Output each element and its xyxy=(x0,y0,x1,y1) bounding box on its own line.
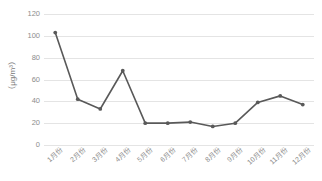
y-axis-tick-labels: 020406080100120 xyxy=(16,0,40,181)
y-tick-label: 60 xyxy=(18,76,40,84)
y-axis-title-label: （μg/m³） xyxy=(6,57,17,94)
data-point xyxy=(188,120,192,124)
data-point xyxy=(211,125,215,129)
x-tick-label: 11月份 xyxy=(268,146,288,165)
data-point xyxy=(166,121,170,125)
y-tick-label: 100 xyxy=(18,32,40,40)
x-axis-tick-labels: 1月份2月份3月份4月份5月份6月份7月份8月份9月份10月份11月份12月份 xyxy=(44,146,314,181)
x-tick-label: 12月份 xyxy=(291,146,312,166)
data-point xyxy=(143,121,147,125)
x-tick-label: 10月份 xyxy=(246,146,267,166)
x-tick-label: 8月份 xyxy=(203,146,221,163)
series-polyline xyxy=(55,33,303,127)
x-tick-label: 5月份 xyxy=(136,146,154,163)
data-point xyxy=(301,103,305,107)
x-tick-label: 1月份 xyxy=(46,146,64,163)
data-point xyxy=(76,97,80,101)
x-tick-label: 6月份 xyxy=(158,146,176,163)
x-tick-label: 3月份 xyxy=(91,146,109,163)
data-point xyxy=(53,31,57,35)
y-tick-label: 0 xyxy=(18,141,40,149)
y-tick-label: 80 xyxy=(18,54,40,62)
x-tick-label: 2月份 xyxy=(68,146,86,163)
line-chart: （μg/m³） 020406080100120 1月份2月份3月份4月份5月份6… xyxy=(0,0,322,181)
x-tick-label: 4月份 xyxy=(113,146,131,163)
y-tick-label: 20 xyxy=(18,119,40,127)
series-line xyxy=(44,14,314,145)
data-point xyxy=(98,107,102,111)
plot-area xyxy=(44,14,314,145)
y-tick-label: 120 xyxy=(18,10,40,18)
data-point xyxy=(121,69,125,73)
x-tick-label: 9月份 xyxy=(226,146,244,163)
data-point xyxy=(256,101,260,105)
y-tick-label: 40 xyxy=(18,98,40,106)
data-point xyxy=(233,121,237,125)
series-markers xyxy=(53,31,304,129)
data-point xyxy=(278,94,282,98)
x-tick-label: 7月份 xyxy=(181,146,199,163)
